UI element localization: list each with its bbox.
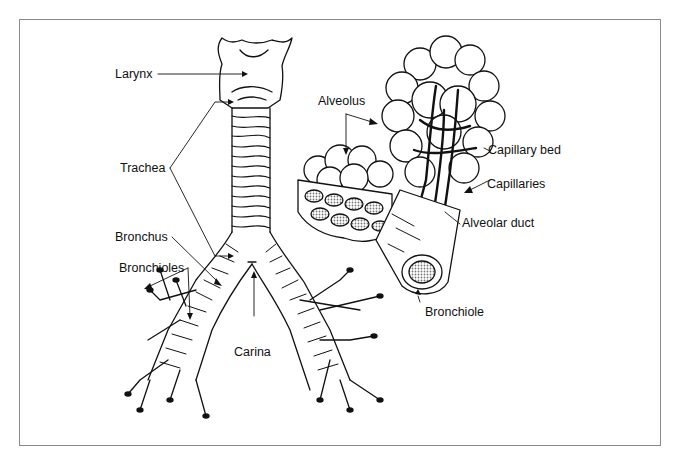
label-trachea: Trachea: [120, 162, 165, 175]
label-capillaries: Capillaries: [487, 178, 545, 191]
label-alveolus: Alveolus: [318, 95, 365, 108]
label-bronchiole: Bronchiole: [425, 306, 484, 319]
label-bronchioles: Bronchioles: [119, 262, 184, 275]
bronchi-shape: [125, 232, 383, 418]
trachea-shape: [232, 108, 270, 232]
label-bronchus: Bronchus: [115, 231, 168, 244]
respiratory-illustration: [0, 0, 679, 467]
label-larynx: Larynx: [115, 68, 153, 81]
alveolar-cluster-capillary-bed: [376, 36, 505, 294]
alveolar-sac-section: [298, 145, 393, 241]
label-capillary-bed: Capillary bed: [488, 144, 561, 157]
label-carina: Carina: [234, 346, 271, 359]
larynx-shape: [218, 38, 292, 108]
label-alveolar-duct: Alveolar duct: [462, 217, 534, 230]
